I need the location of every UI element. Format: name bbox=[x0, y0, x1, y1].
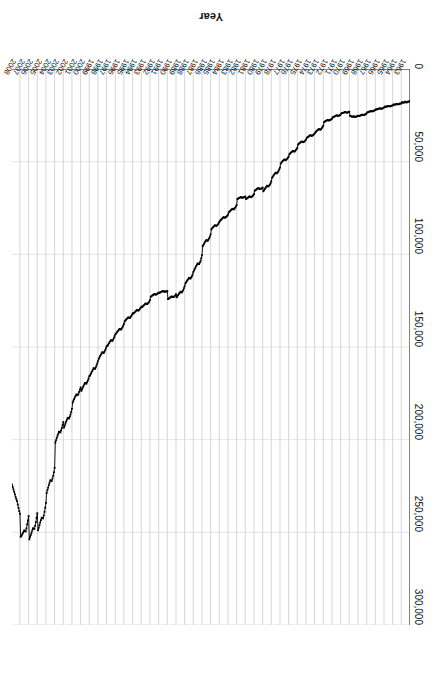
data-point-marker bbox=[38, 527, 40, 529]
data-point-marker bbox=[18, 507, 20, 509]
data-point-marker bbox=[105, 347, 107, 349]
data-point-marker bbox=[62, 424, 64, 426]
data-point-marker bbox=[97, 360, 99, 362]
data-point-marker bbox=[81, 388, 83, 390]
data-point-marker bbox=[19, 513, 21, 515]
data-point-marker bbox=[12, 486, 14, 488]
data-point-marker bbox=[17, 504, 19, 506]
data-point-marker bbox=[29, 536, 31, 538]
data-point-marker bbox=[32, 527, 34, 529]
data-point-marker bbox=[73, 400, 75, 402]
data-point-marker bbox=[61, 427, 63, 429]
data-point-marker bbox=[210, 233, 212, 235]
data-point-marker bbox=[52, 478, 54, 480]
value-axis-label: 100,000 bbox=[413, 218, 424, 254]
data-point-marker bbox=[106, 345, 108, 347]
rotated-figure-container: Median Sales Price Year 050,000100,00015… bbox=[0, 0, 444, 684]
data-point-marker bbox=[271, 177, 273, 179]
chart-page: Median Sales Price Year 050,000100,00015… bbox=[0, 0, 444, 684]
data-point-marker bbox=[31, 530, 33, 532]
data-point-marker bbox=[236, 198, 238, 200]
data-point-marker bbox=[210, 228, 212, 230]
data-point-marker bbox=[26, 528, 28, 530]
data-point-marker bbox=[96, 365, 98, 367]
data-point-marker bbox=[123, 323, 125, 325]
data-point-marker bbox=[30, 534, 32, 536]
data-point-marker bbox=[67, 417, 69, 419]
data-point-marker bbox=[26, 523, 28, 525]
data-point-marker bbox=[15, 498, 17, 500]
value-axis-label: 150,000 bbox=[413, 311, 424, 347]
data-point-marker bbox=[49, 479, 51, 481]
data-point-marker bbox=[270, 180, 272, 182]
data-point-marker bbox=[254, 190, 256, 192]
data-point-marker bbox=[52, 475, 54, 477]
chart-canvas bbox=[12, 69, 410, 625]
data-point-marker bbox=[150, 296, 152, 298]
data-point-marker bbox=[288, 153, 290, 155]
gridlines bbox=[12, 69, 410, 625]
data-point-marker bbox=[83, 385, 85, 387]
data-point-marker bbox=[176, 296, 178, 298]
data-point-marker bbox=[72, 402, 74, 404]
data-point-marker bbox=[46, 489, 48, 491]
data-point-marker bbox=[192, 274, 194, 276]
data-point-marker bbox=[39, 522, 41, 524]
data-point-marker bbox=[28, 538, 30, 540]
data-point-marker bbox=[201, 254, 203, 256]
data-point-marker bbox=[12, 484, 13, 486]
data-point-marker bbox=[71, 408, 73, 410]
data-point-marker bbox=[28, 515, 30, 517]
data-point-marker bbox=[63, 427, 65, 429]
data-point-marker bbox=[41, 517, 43, 519]
data-point-marker bbox=[79, 389, 81, 391]
data-point-marker bbox=[57, 433, 59, 435]
data-point-marker bbox=[114, 335, 116, 337]
data-point-marker bbox=[279, 167, 281, 169]
data-point-marker bbox=[184, 283, 186, 285]
data-point-marker bbox=[13, 491, 15, 493]
data-point-marker bbox=[65, 421, 67, 423]
data-point-marker bbox=[13, 488, 15, 490]
data-point-marker bbox=[47, 487, 49, 489]
data-point-marker bbox=[70, 414, 72, 416]
data-point-marker bbox=[114, 334, 116, 336]
data-point-marker bbox=[202, 245, 204, 247]
data-point-marker bbox=[44, 507, 46, 509]
data-point-marker bbox=[262, 190, 264, 192]
data-point-marker bbox=[306, 137, 308, 139]
data-point-marker bbox=[167, 298, 169, 300]
data-point-marker bbox=[60, 430, 62, 432]
data-point-marker bbox=[122, 325, 124, 327]
data-point-marker bbox=[70, 411, 72, 413]
data-point-marker bbox=[36, 512, 38, 514]
data-point-marker bbox=[192, 271, 194, 273]
data-point-marker bbox=[53, 471, 55, 473]
data-point-marker bbox=[184, 285, 186, 287]
value-axis-label: 300,000 bbox=[413, 589, 424, 625]
data-point-marker bbox=[18, 510, 20, 512]
x-axis-title: Year bbox=[199, 11, 223, 23]
data-point-marker bbox=[34, 525, 36, 527]
data-point-marker bbox=[14, 493, 16, 495]
data-point-marker bbox=[39, 524, 41, 526]
data-point-marker bbox=[55, 439, 57, 441]
data-point-marker bbox=[200, 258, 202, 260]
data-point-marker bbox=[73, 398, 75, 400]
data-point-marker bbox=[27, 520, 29, 522]
data-point-marker bbox=[54, 442, 56, 444]
data-point-marker bbox=[15, 496, 17, 498]
data-point-marker bbox=[349, 115, 351, 117]
data-point-marker bbox=[280, 163, 282, 165]
data-point-marker bbox=[57, 435, 59, 437]
data-point-marker bbox=[16, 500, 18, 502]
data-point-marker bbox=[209, 236, 211, 238]
data-point-marker bbox=[297, 144, 299, 146]
chart-figure: Median Sales Price Year 050,000100,00015… bbox=[0, 0, 444, 684]
data-point-marker bbox=[49, 482, 51, 484]
data-point-marker bbox=[96, 363, 98, 365]
plot-area bbox=[12, 69, 410, 625]
data-point-marker bbox=[82, 387, 84, 389]
data-point-marker bbox=[124, 321, 126, 323]
value-axis-label: 50,000 bbox=[413, 131, 424, 162]
